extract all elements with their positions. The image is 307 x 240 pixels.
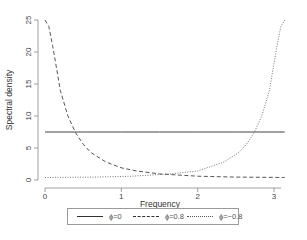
y-tick-label: 0: [24, 177, 33, 182]
dashed-line-swatch-icon: [133, 216, 159, 217]
spectral-density-chart: 0510152025 0123 Spectral density Frequen…: [0, 0, 307, 240]
legend-label: ϕ=0.8: [165, 212, 184, 221]
legend: ϕ=0 ϕ=0.8 ϕ=−0.8: [67, 208, 239, 225]
series-line-dotted: [45, 20, 285, 178]
x-tick-label: 3: [272, 192, 277, 201]
legend-label: ϕ=0: [109, 212, 122, 221]
y-axis-title: Spectral density: [4, 69, 14, 130]
y-tick-label: 10: [24, 111, 33, 120]
legend-item-phi-0: ϕ=0: [77, 209, 122, 224]
legend-item-phi-neg-0-8: ϕ=−0.8: [187, 209, 242, 224]
dotted-line-swatch-icon: [187, 216, 213, 217]
y-tick-label: 20: [24, 47, 33, 56]
y-tick-label: 15: [24, 79, 33, 88]
series-line-dashed: [45, 20, 285, 178]
x-tick-label: 0: [43, 192, 48, 201]
x-tick-label: 1: [119, 192, 124, 201]
legend-item-phi-0-8: ϕ=0.8: [133, 209, 184, 224]
y-tick-label: 5: [24, 145, 33, 150]
legend-label: ϕ=−0.8: [219, 212, 242, 221]
y-tick-label: 25: [24, 15, 33, 24]
y-ticks: 0510152025: [24, 15, 38, 182]
solid-line-swatch-icon: [77, 216, 103, 217]
x-tick-label: 2: [195, 192, 200, 201]
plot-series: [45, 20, 285, 178]
